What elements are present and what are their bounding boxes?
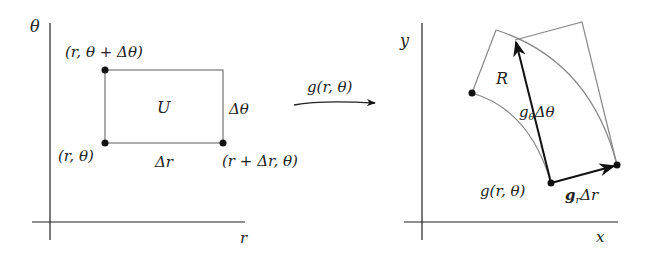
region-r-left-edge [472, 30, 496, 93]
vector-g-theta-label: gθΔθ [519, 103, 555, 122]
region-r-outer-arc [496, 30, 617, 165]
mapping-label: g(r, θ) [307, 78, 353, 96]
r-axis-label: r [240, 229, 248, 247]
region-r-label: R [495, 69, 508, 88]
jacobian-diagram: θ r U (r, θ + Δθ) (r, θ) (r + Δr, θ) Δθ … [0, 0, 649, 258]
point-base-dot [548, 180, 555, 187]
point-right-dot [614, 162, 621, 169]
point-bottom-left [102, 140, 109, 147]
parallelogram-edges [515, 22, 617, 165]
region-u-label: U [157, 98, 171, 117]
x-axis-label: x [596, 228, 605, 246]
point-left-dot [469, 90, 476, 97]
theta-axis-label: θ [30, 17, 40, 36]
point-top-left [102, 67, 109, 74]
vector-g-r [551, 166, 614, 183]
right-panel: y x R g(r, θ) gθΔθ grΔr [399, 22, 621, 246]
corner-top-left-label: (r, θ + Δθ) [65, 43, 143, 61]
mapping: g(r, θ) [294, 78, 375, 105]
y-axis-label: y [399, 31, 410, 50]
base-point-label: g(r, θ) [480, 182, 526, 200]
side-delta-r-label: Δr [154, 153, 174, 171]
vector-g-r-label: grΔr [565, 186, 599, 205]
point-bottom-right [220, 140, 227, 147]
side-delta-theta-label: Δθ [228, 100, 249, 118]
mapping-arrow [294, 102, 375, 105]
left-panel: θ r U (r, θ + Δθ) (r, θ) (r + Δr, θ) Δθ … [30, 17, 298, 247]
corner-bottom-left-label: (r, θ) [58, 147, 94, 165]
corner-bottom-right-label: (r + Δr, θ) [222, 152, 298, 170]
